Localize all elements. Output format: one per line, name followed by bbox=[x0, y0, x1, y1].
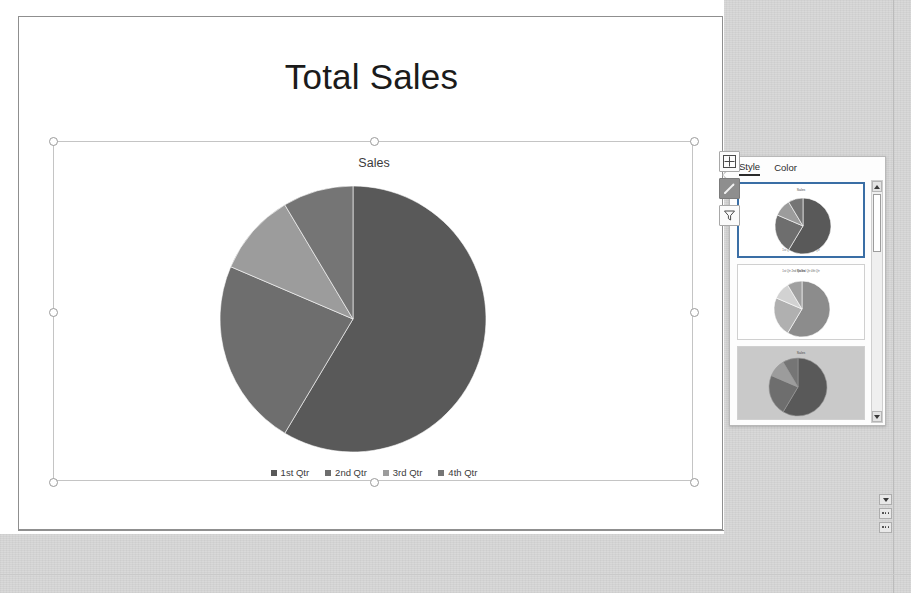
funnel-icon bbox=[723, 209, 736, 222]
legend-swatch bbox=[438, 470, 444, 476]
legend-item[interactable]: 4th Qtr bbox=[438, 467, 477, 478]
resize-handle-middle-left[interactable] bbox=[49, 308, 58, 317]
tab-style[interactable]: Style bbox=[739, 161, 760, 176]
bottom-divider bbox=[0, 574, 911, 575]
legend-label: 1st Qtr bbox=[281, 467, 310, 478]
resize-handle-top-left[interactable] bbox=[49, 137, 58, 146]
chart-legend[interactable]: 1st Qtr2nd Qtr3rd Qtr4th Qtr bbox=[54, 467, 694, 478]
previous-slide-button[interactable] bbox=[879, 494, 892, 505]
legend-item[interactable]: 1st Qtr bbox=[271, 467, 310, 478]
chart-elements-button[interactable] bbox=[719, 151, 740, 172]
legend-swatch bbox=[325, 470, 331, 476]
paintbrush-icon bbox=[723, 182, 736, 195]
legend-swatch bbox=[383, 470, 389, 476]
resize-handle-middle-right[interactable] bbox=[690, 308, 699, 317]
ellipsis-icon bbox=[882, 512, 889, 515]
chart-style-panel[interactable]: Style Color Sales1st Qtr 2nd Qtr 3rd Qtr… bbox=[729, 156, 886, 426]
scroll-down-icon bbox=[874, 415, 880, 419]
legend-label: 2nd Qtr bbox=[335, 467, 367, 478]
legend-item[interactable]: 3rd Qtr bbox=[383, 467, 423, 478]
resize-handle-bottom-center[interactable] bbox=[370, 478, 379, 487]
thumbnail-pie bbox=[738, 347, 866, 421]
plus-icon bbox=[723, 155, 736, 168]
chart-title[interactable]: Sales bbox=[54, 156, 694, 170]
panel-tab-bar[interactable]: Style Color bbox=[730, 157, 887, 179]
slide-canvas[interactable]: Total Sales Sales 1st Qtr2nd Qtr3rd Qtr4… bbox=[18, 16, 723, 530]
scroll-up-icon bbox=[874, 185, 880, 189]
scrollbar-thumb[interactable] bbox=[873, 194, 881, 252]
thumbnail-pie bbox=[738, 265, 866, 341]
powerpoint-window: Total Sales Sales 1st Qtr2nd Qtr3rd Qtr4… bbox=[0, 0, 911, 593]
tab-color[interactable]: Color bbox=[774, 162, 797, 175]
resize-handle-top-right[interactable] bbox=[690, 137, 699, 146]
chart-styles-button[interactable] bbox=[719, 178, 740, 199]
slide-title[interactable]: Total Sales bbox=[19, 57, 724, 97]
resize-handle-top-center[interactable] bbox=[370, 137, 379, 146]
chart-style-3[interactable]: Sales bbox=[737, 346, 865, 420]
chart-style-2[interactable]: Sales1st Qtr 2nd Qtr 3rd Qtr 4th Qtr bbox=[737, 264, 865, 340]
pie-chart-svg[interactable] bbox=[219, 185, 487, 453]
resize-handle-bottom-right[interactable] bbox=[690, 478, 699, 487]
resize-handle-bottom-left[interactable] bbox=[49, 478, 58, 487]
chart-object[interactable]: Sales 1st Qtr2nd Qtr3rd Qtr4th Qtr bbox=[53, 141, 693, 481]
scroll-down-icon bbox=[883, 498, 889, 502]
next-slide-button[interactable] bbox=[879, 522, 892, 533]
legend-item[interactable]: 2nd Qtr bbox=[325, 467, 367, 478]
chart-style-1[interactable]: Sales1st Qtr 2nd Qtr 3rd Qtr 4th Qtr bbox=[737, 182, 865, 258]
ellipsis-icon bbox=[882, 526, 889, 529]
slide-nav-buttons[interactable] bbox=[879, 494, 892, 533]
pie-plot-area[interactable] bbox=[219, 185, 487, 453]
legend-label: 3rd Qtr bbox=[393, 467, 423, 478]
legend-label: 4th Qtr bbox=[448, 467, 477, 478]
slide-bottom-edge bbox=[18, 530, 724, 531]
slide-sorter-button[interactable] bbox=[879, 508, 892, 519]
thumbnail-pie bbox=[739, 184, 867, 260]
legend-swatch bbox=[271, 470, 277, 476]
scroll-up-button[interactable] bbox=[872, 181, 882, 192]
chart-filters-button[interactable] bbox=[719, 205, 740, 226]
gallery-scrollbar[interactable] bbox=[871, 180, 883, 423]
chart-quick-buttons[interactable] bbox=[719, 151, 741, 226]
scroll-down-button[interactable] bbox=[872, 411, 882, 422]
right-divider bbox=[893, 0, 894, 593]
chart-style-gallery[interactable]: Sales1st Qtr 2nd Qtr 3rd Qtr 4th QtrSale… bbox=[732, 180, 871, 423]
